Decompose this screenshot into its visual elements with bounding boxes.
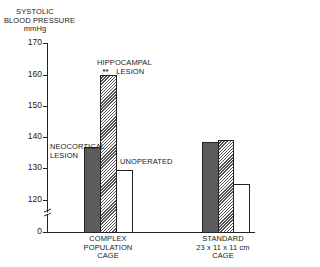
bar-neocortical-standard: [202, 142, 219, 233]
bar-unoperated-complex: [116, 170, 133, 233]
label-hippocampal-line2: LESION: [116, 67, 144, 76]
category-standard-line3: CAGE: [192, 252, 254, 261]
label-hippocampal-lesion: HIPPOCAMPAL ** LESION: [97, 59, 152, 76]
category-complex-line3: CAGE: [78, 252, 138, 261]
label-unoperated: UNOPERATED: [120, 158, 173, 167]
category-label-complex: COMPLEX POPULATION CAGE: [78, 235, 138, 261]
category-label-standard: STANDARD 23 x 11 x 11 cm CAGE: [192, 235, 254, 261]
bar-hippocampal-standard: [218, 140, 234, 233]
bar-unoperated-standard: [233, 184, 250, 233]
label-hippocampal-line2-row: ** LESION: [97, 68, 152, 77]
label-unoperated-text: UNOPERATED: [120, 157, 173, 166]
label-neocortical-line2: LESION: [50, 152, 105, 161]
label-neocortical-lesion: NEOCORTICAL LESION: [50, 143, 105, 160]
significance-stars: **: [97, 68, 114, 77]
